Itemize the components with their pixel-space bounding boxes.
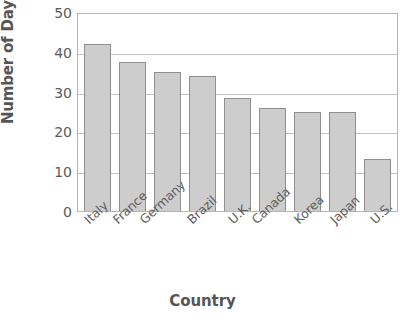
bar-slot <box>220 14 255 211</box>
y-axis-tick-label: 0 <box>36 204 72 220</box>
x-tick-slot: Italy <box>77 212 113 270</box>
bar[interactable] <box>224 98 251 211</box>
x-tick-slot: Brazil <box>184 212 220 270</box>
bar[interactable] <box>189 76 216 211</box>
x-tick-slot: Germany <box>148 212 184 270</box>
chart-title <box>0 0 405 3</box>
y-axis-tick-labels: 01020304050 <box>36 13 72 212</box>
x-axis-title: Country <box>0 292 405 310</box>
bar[interactable] <box>84 44 111 211</box>
y-axis-tick-label: 40 <box>36 45 72 61</box>
bar[interactable] <box>119 62 146 211</box>
y-axis-title: Number of Days <box>0 0 19 124</box>
bar-slot <box>115 14 150 211</box>
bar-series <box>78 14 397 211</box>
bar-slot <box>360 14 395 211</box>
bar-slot <box>185 14 220 211</box>
bar-slot <box>325 14 360 211</box>
plot-area <box>77 13 398 212</box>
x-tick-slot: U.K. <box>220 212 256 270</box>
y-axis-tick-label: 50 <box>36 5 72 21</box>
y-axis-tick-label: 10 <box>36 164 72 180</box>
x-tick-slot: Canada <box>255 212 291 270</box>
x-axis-tick-labels: ItalyFranceGermanyBrazilU.K.CanadaKoreaJ… <box>77 212 398 270</box>
y-axis-tick-label: 30 <box>36 85 72 101</box>
bar-slot <box>290 14 325 211</box>
bar-slot <box>255 14 290 211</box>
x-tick-slot: Japan <box>327 212 363 270</box>
x-tick-slot: U.S. <box>362 212 398 270</box>
bar-chart: Number of Days 01020304050 ItalyFranceGe… <box>0 0 405 324</box>
x-tick-slot: Korea <box>291 212 327 270</box>
bar-slot <box>80 14 115 211</box>
y-axis-tick-label: 20 <box>36 124 72 140</box>
